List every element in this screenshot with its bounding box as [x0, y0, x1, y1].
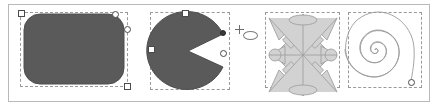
shape-rounded-rectangle[interactable] [0, 0, 140, 109]
shape-logarithmic-spiral[interactable] [345, 0, 438, 109]
spiral-link [346, 22, 355, 49]
editor-canvas [0, 0, 438, 109]
handle-corner-radius[interactable] [124, 26, 131, 33]
handle-wedge-start-angle[interactable] [220, 30, 226, 36]
handle-spiral-end[interactable] [408, 79, 415, 86]
handle-wedge-end-angle[interactable] [220, 50, 227, 57]
crosshair-cursor-icon [235, 25, 244, 34]
handle-top-right[interactable] [112, 11, 119, 18]
pac-wedge-glyph[interactable] [142, 0, 264, 109]
spiral-tail [355, 12, 414, 82]
kaleidoscope-glyph[interactable] [263, 0, 345, 109]
handle-top-left[interactable] [18, 10, 25, 17]
ghost-ellipse-preview [243, 31, 258, 40]
handle-bottom-right[interactable] [124, 83, 131, 90]
logarithmic-spiral-glyph[interactable] [345, 0, 438, 109]
handle-left-middle[interactable] [148, 46, 155, 53]
handle-top-center[interactable] [182, 10, 189, 17]
shape-pac-wedge[interactable] [142, 0, 264, 109]
shape-kaleidoscope[interactable] [263, 0, 345, 109]
spiral-outer-sweep [346, 31, 399, 77]
